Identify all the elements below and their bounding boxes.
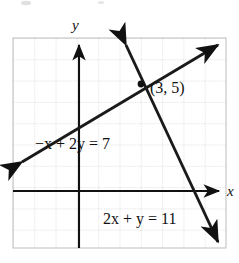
- graph-figure: y x (3, 5) −x + 2y = 7 2x + y = 11: [0, 0, 239, 263]
- intersection-point-label: (3, 5): [150, 80, 185, 96]
- x-axis-label: x: [227, 184, 234, 199]
- equation-label-1: −x + 2y = 7: [35, 136, 110, 152]
- equation-label-2: 2x + y = 11: [103, 211, 176, 227]
- intersection-dot: [138, 81, 145, 88]
- y-axis-label: y: [72, 18, 79, 33]
